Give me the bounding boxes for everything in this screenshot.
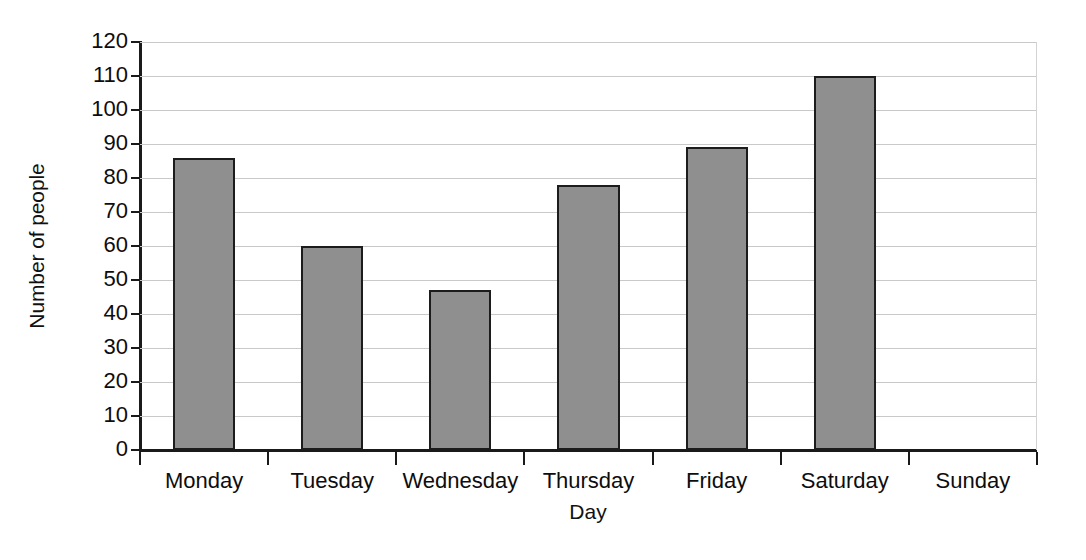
plot-right-edge xyxy=(1036,42,1037,450)
bar xyxy=(173,158,235,450)
x-axis-category-label: Saturday xyxy=(781,466,909,496)
y-axis-tick-label-text: 50 xyxy=(0,268,128,290)
y-axis-tick-label: 100 xyxy=(0,98,128,120)
gridline xyxy=(140,110,1037,111)
y-axis-tick-label: 20 xyxy=(0,370,128,392)
y-axis-tick-label: 40 xyxy=(0,302,128,324)
x-axis-category-label: Friday xyxy=(653,466,781,496)
y-axis-tick-label: 0 xyxy=(0,438,128,460)
y-axis-tick xyxy=(131,347,140,349)
x-axis-tick xyxy=(652,452,654,465)
gridline xyxy=(140,178,1037,179)
x-axis-category-label: Monday xyxy=(140,466,268,496)
x-axis-tick xyxy=(908,452,910,465)
gridline xyxy=(140,42,1037,43)
bar xyxy=(429,290,491,450)
y-axis-tick-label-text: 80 xyxy=(0,166,128,188)
y-axis-tick xyxy=(131,75,140,77)
y-axis-tick-label-text: 10 xyxy=(0,404,128,426)
y-axis-tick-label-text: 70 xyxy=(0,200,128,222)
y-axis-tick-label: 70 xyxy=(0,200,128,222)
y-axis-tick-label: 110 xyxy=(0,64,128,86)
y-axis-tick-label-text: 40 xyxy=(0,302,128,324)
bar xyxy=(301,246,363,450)
y-axis-tick-label-text: 0 xyxy=(0,438,128,460)
y-axis-tick-label: 80 xyxy=(0,166,128,188)
y-axis-tick-label-text: 30 xyxy=(0,336,128,358)
y-axis-tick xyxy=(131,41,140,43)
y-axis-tick xyxy=(131,109,140,111)
y-axis-tick xyxy=(131,245,140,247)
y-axis-tick xyxy=(131,449,140,451)
x-axis-tick xyxy=(780,452,782,465)
y-axis-tick-label-text: 90 xyxy=(0,132,128,154)
x-axis-tick xyxy=(395,452,397,465)
y-axis-tick-label: 90 xyxy=(0,132,128,154)
x-axis-category-label: Sunday xyxy=(909,466,1037,496)
x-axis-category-label: Tuesday xyxy=(268,466,396,496)
y-axis-tick-label-text: 100 xyxy=(0,98,128,120)
x-axis-tick xyxy=(523,452,525,465)
bar xyxy=(814,76,876,450)
y-axis-tick xyxy=(131,279,140,281)
x-axis-category-label: Wednesday xyxy=(396,466,524,496)
y-axis-tick xyxy=(131,143,140,145)
y-axis-tick xyxy=(131,313,140,315)
y-axis-tick-label: 10 xyxy=(0,404,128,426)
plot-area xyxy=(140,42,1037,450)
y-axis-tick xyxy=(131,381,140,383)
y-axis-tick xyxy=(131,177,140,179)
x-axis-title: Day xyxy=(140,500,1036,524)
x-axis-tick xyxy=(267,452,269,465)
x-axis-tick xyxy=(139,452,141,465)
y-axis-tick-label: 120 xyxy=(0,30,128,52)
y-axis-tick xyxy=(131,415,140,417)
bar xyxy=(557,185,619,450)
x-axis-category-label: Thursday xyxy=(524,466,652,496)
y-axis-tick xyxy=(131,211,140,213)
y-axis-tick-label-text: 120 xyxy=(0,30,128,52)
gridline xyxy=(140,76,1037,77)
gridline xyxy=(140,144,1037,145)
y-axis-tick-label-text: 60 xyxy=(0,234,128,256)
bar xyxy=(686,147,748,450)
y-axis-tick-label: 60 xyxy=(0,234,128,256)
x-axis-tick xyxy=(1036,452,1038,465)
bar-chart: Number of people 01020304050607080901001… xyxy=(0,0,1086,560)
y-axis-tick-label: 30 xyxy=(0,336,128,358)
y-axis-tick-label-text: 110 xyxy=(0,64,128,86)
y-axis-tick-label-text: 20 xyxy=(0,370,128,392)
y-axis-tick-label: 50 xyxy=(0,268,128,290)
gridline xyxy=(140,450,1037,451)
